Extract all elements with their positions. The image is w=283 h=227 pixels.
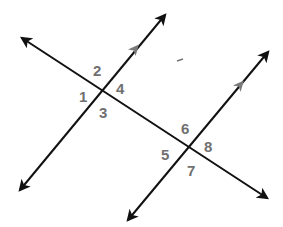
angle-label-1: 1 — [79, 88, 87, 105]
parallel-line-1 — [20, 15, 165, 190]
angle-label-7: 7 — [187, 162, 195, 179]
angle-label-2: 2 — [93, 62, 101, 79]
angle-label-6: 6 — [181, 120, 189, 137]
angle-label-8: 8 — [204, 138, 212, 155]
parallel-line-2 — [128, 52, 268, 220]
angle-label-4: 4 — [116, 80, 125, 97]
transversal-line — [22, 38, 267, 198]
parallel-lines-transversal-diagram: 1 2 3 4 5 6 7 8 — [0, 0, 283, 227]
angle-label-5: 5 — [161, 146, 169, 163]
angle-label-3: 3 — [99, 104, 107, 121]
stray-mark — [177, 59, 183, 61]
